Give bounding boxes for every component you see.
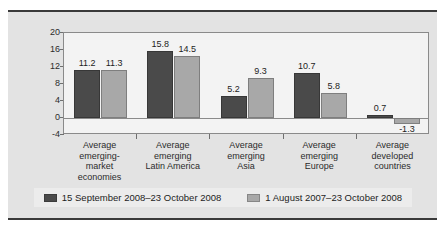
legend-item[interactable]: 1 August 2007–23 October 2008 — [247, 193, 402, 203]
y-axis-tick-label: -4 — [38, 130, 60, 139]
category-tick-mark — [209, 134, 210, 139]
category-label: Averageemerging-marketeconomies — [63, 140, 136, 182]
category-label-line: developed — [356, 151, 429, 162]
bar — [174, 56, 200, 118]
category-label-line: Average — [356, 140, 429, 151]
category-axis-labels: Averageemerging-marketeconomiesAverageem… — [63, 140, 429, 186]
bar-value-label: 5.2 — [217, 85, 251, 94]
y-axis-tick-labels: 201612840-4 — [30, 32, 60, 134]
legend-label: 1 August 2007–23 October 2008 — [265, 193, 402, 203]
category-tick-marks — [63, 134, 429, 139]
bar-value-label: 0.7 — [363, 104, 397, 113]
bar — [74, 70, 100, 118]
y-axis-tick-label: 8 — [38, 79, 60, 88]
category-label-line: countries — [356, 161, 429, 172]
category-label-line: Average — [283, 140, 356, 151]
bar-value-label: 10.7 — [290, 62, 324, 71]
y-axis-tick-label: 12 — [38, 62, 60, 71]
bar-value-label: 9.3 — [244, 67, 278, 76]
category-label-line: Average — [63, 140, 136, 151]
category-tick-mark — [283, 134, 284, 139]
bar — [294, 73, 320, 118]
category-tick-mark — [136, 134, 137, 139]
category-label-line: emerging — [283, 151, 356, 162]
bar-value-label: 14.5 — [170, 45, 204, 54]
bar — [221, 96, 247, 118]
category-tick-mark — [356, 134, 357, 139]
category-label: AverageemergingEurope — [283, 140, 356, 172]
category-label-line: Latin America — [136, 161, 209, 172]
bar-value-label: 5.8 — [317, 82, 351, 91]
category-label-line: economies — [63, 172, 136, 183]
y-axis-tick-label: 20 — [38, 28, 60, 37]
bar-value-label: 11.3 — [97, 59, 131, 68]
category-label-line: Asia — [209, 161, 282, 172]
category-label-line: emerging — [136, 151, 209, 162]
category-label-line: Europe — [283, 161, 356, 172]
bar — [367, 115, 393, 118]
chart-figure: 201612840-4 11.215.85.210.70.711.314.59.… — [0, 0, 445, 236]
y-axis-tick-label: 0 — [38, 113, 60, 122]
bar — [321, 93, 347, 118]
legend-item[interactable]: 15 September 2008–23 October 2008 — [44, 193, 222, 203]
chart-legend: 15 September 2008–23 October 20081 Augus… — [34, 188, 412, 207]
category-label: AverageemergingLatin America — [136, 140, 209, 172]
category-label-line: market — [63, 161, 136, 172]
bar — [101, 70, 127, 118]
plot-area: 11.215.85.210.70.711.314.59.35.8-1.3 — [63, 32, 429, 134]
category-label-line: Average — [209, 140, 282, 151]
legend-label: 15 September 2008–23 October 2008 — [62, 193, 222, 203]
category-label: Averagedevelopedcountries — [356, 140, 429, 172]
bar — [394, 118, 420, 124]
legend-swatch-icon — [44, 194, 57, 202]
category-label-line: Average — [136, 140, 209, 151]
legend-swatch-icon — [247, 194, 260, 202]
category-label: AverageemergingAsia — [209, 140, 282, 172]
category-label-line: emerging — [209, 151, 282, 162]
chart-panel: 201612840-4 11.215.85.210.70.711.314.59.… — [8, 10, 437, 220]
category-label-line: emerging- — [63, 151, 136, 162]
bar — [147, 51, 173, 118]
bar-value-label: -1.3 — [390, 125, 424, 134]
bar — [248, 78, 274, 118]
y-axis-tick-label: 4 — [38, 96, 60, 105]
bars-layer: 11.215.85.210.70.711.314.59.35.8-1.3 — [64, 33, 428, 133]
y-axis-tick-label: 16 — [38, 45, 60, 54]
